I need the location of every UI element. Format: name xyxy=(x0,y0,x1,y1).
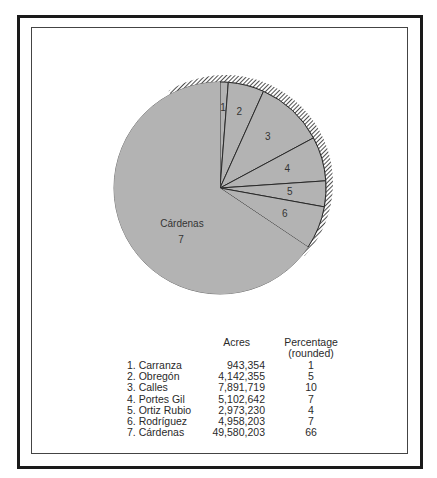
pie-slice-label-5: 5 xyxy=(287,186,293,197)
pie-big-slice-name: Cárdenas xyxy=(160,218,203,229)
pie-chart: 123456Cárdenas7 xyxy=(0,0,437,478)
pie-slice-label-2: 2 xyxy=(237,106,243,117)
pie-slice-label-4: 4 xyxy=(284,163,290,174)
pie-slice-label-6: 6 xyxy=(282,208,288,219)
pie-slice-label-1: 1 xyxy=(220,102,226,113)
pie-slices xyxy=(114,82,326,294)
pie-big-slice-number: 7 xyxy=(178,234,184,245)
pie-slice-label-3: 3 xyxy=(265,131,271,142)
